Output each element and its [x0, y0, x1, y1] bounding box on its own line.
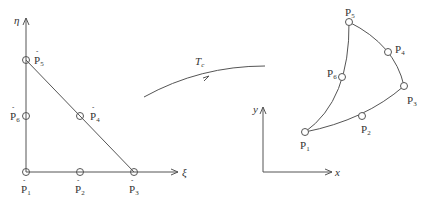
physical-element	[263, 19, 408, 173]
edge-p1-p3	[305, 86, 404, 132]
label-phys-p2: P2	[361, 124, 371, 137]
node-phys-p3	[401, 83, 408, 90]
reference-element	[23, 18, 179, 176]
label-phys-p3: P3	[407, 95, 417, 108]
node-phys-p1	[302, 129, 309, 136]
node-phys-p2	[359, 113, 366, 120]
node-phys-p4	[385, 49, 392, 56]
label-phys-p1: P1	[300, 140, 310, 153]
label-phys-p4: P4	[395, 44, 405, 57]
label-ref-p3: P3	[129, 184, 139, 197]
label-phys-p6: P6	[327, 68, 337, 81]
label-ref-p4: P4	[90, 111, 100, 124]
label-ref-p1: P1	[21, 184, 31, 197]
y-axis-label: y	[253, 104, 258, 115]
label-ref-p5: P5	[34, 55, 44, 68]
label-phys-p5: P5	[345, 7, 355, 20]
hypotenuse-edge	[26, 60, 134, 172]
mapping-arrow	[144, 66, 265, 97]
eta-axis-label: η	[14, 15, 19, 26]
xi-axis-label: ξ	[182, 167, 187, 178]
node-phys-p6	[339, 74, 346, 81]
label-ref-p6: P6	[10, 111, 20, 124]
x-axis-label: x	[335, 167, 340, 178]
label-ref-p2: P2	[75, 184, 85, 197]
mapping-label: Tc	[195, 56, 204, 69]
diagram-canvas	[0, 0, 427, 204]
